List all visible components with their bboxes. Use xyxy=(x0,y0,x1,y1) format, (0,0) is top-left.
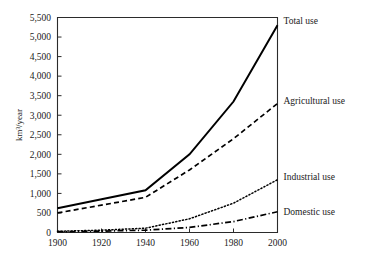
y-axis-title: km³/year xyxy=(14,109,24,141)
y-axis-ticks xyxy=(58,18,62,233)
y-tick-label: 5,000 xyxy=(30,32,52,42)
series-label-group: Total useAgricultural useIndustrial useD… xyxy=(284,16,345,217)
series-line-total-use xyxy=(58,25,278,208)
x-tick-label: 1960 xyxy=(180,238,199,248)
y-tick-label: 2,500 xyxy=(30,130,52,140)
series-label-total-use: Total use xyxy=(284,16,318,26)
series-label-domestic-use: Domestic use xyxy=(284,207,335,217)
series-line-domestic-use xyxy=(58,212,278,232)
y-tick-label: 2,000 xyxy=(30,150,52,160)
y-tick-label: 0 xyxy=(46,228,51,238)
axis-frame xyxy=(58,18,278,233)
x-tick-label: 1920 xyxy=(92,238,111,248)
y-tick-label: 3,000 xyxy=(30,111,52,121)
y-axis-title-group: km³/year xyxy=(14,109,24,141)
y-tick-label: 4,000 xyxy=(30,71,52,81)
y-tick-label: 4,500 xyxy=(30,52,52,62)
series-label-agricultural-use: Agricultural use xyxy=(284,96,345,106)
y-tick-label: 5,500 xyxy=(30,13,52,23)
y-tick-label: 500 xyxy=(37,208,52,218)
chart-figure: 05001,0001,5002,0002,5003,0003,5004,0004… xyxy=(0,0,365,265)
x-axis-tick-labels: 190019201940196019802000 xyxy=(48,238,287,248)
x-tick-label: 2000 xyxy=(268,238,287,248)
x-tick-label: 1980 xyxy=(224,238,243,248)
x-tick-label: 1900 xyxy=(48,238,67,248)
y-tick-label: 1,500 xyxy=(30,169,52,179)
series-label-industrial-use: Industrial use xyxy=(284,172,335,182)
y-tick-label: 1,000 xyxy=(30,189,52,199)
line-chart-canvas: 05001,0001,5002,0002,5003,0003,5004,0004… xyxy=(0,0,365,265)
plot-frame xyxy=(58,18,278,233)
x-tick-label: 1940 xyxy=(136,238,155,248)
series-line-agricultural-use xyxy=(58,104,278,213)
data-series-group xyxy=(58,25,278,231)
y-axis-tick-labels: 05001,0001,5002,0002,5003,0003,5004,0004… xyxy=(30,13,52,238)
y-tick-label: 3,500 xyxy=(30,91,52,101)
x-axis-ticks xyxy=(102,229,278,233)
series-line-industrial-use xyxy=(58,180,278,232)
